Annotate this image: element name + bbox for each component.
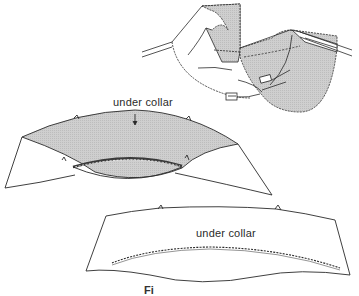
figure-caption: Fi <box>144 284 154 296</box>
under-collar-shaded-drawing <box>5 110 272 195</box>
garment-attachment-drawing <box>142 4 352 112</box>
under-collar-flat-drawing <box>86 205 350 282</box>
under-collar-label-bottom: under collar <box>196 227 256 239</box>
under-collar-label-middle: under collar <box>113 96 173 108</box>
